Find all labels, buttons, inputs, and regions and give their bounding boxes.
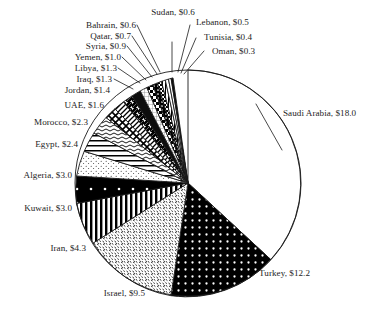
slice-label-turkey: Turkey, $12.2 (259, 268, 310, 279)
slice-label-morocco: Morocco, $2.3 (6, 117, 88, 128)
slice-label-iran: Iran, $4.3 (6, 243, 86, 254)
leader-libya (118, 68, 140, 83)
slice-label-egypt: Egypt, $2.4 (6, 139, 78, 150)
leader-iraq (114, 79, 133, 89)
slice-label-iraq: Iraq, $1.3 (6, 74, 112, 85)
leader-yemen (122, 57, 146, 80)
leader-syria (127, 46, 152, 77)
slice-label-uae: UAE, $1.6 (6, 100, 104, 111)
slice-label-bahrain: Bahrain, $0.6 (10, 20, 136, 31)
leader-lebanon (178, 25, 190, 72)
slice-label-libya: Libya, $1.3 (6, 63, 117, 74)
slice-label-saudi-arabia: Saudi Arabia, $18.0 (283, 108, 356, 119)
slice-label-algeria: Algeria, $3.0 (6, 170, 72, 181)
slice-label-israel: Israel, $9.5 (40, 288, 145, 299)
slice-label-sudan: Sudan, $0.6 (150, 7, 196, 18)
slice-label-lebanon: Lebanon, $0.5 (196, 17, 249, 28)
leader-tunisia (181, 38, 196, 73)
slice-label-yemen: Yemen, $1.0 (6, 52, 121, 63)
slice-label-syria: Syria, $0.9 (10, 41, 126, 52)
slice-label-jordan: Jordan, $1.4 (6, 85, 110, 96)
slice-label-tunisia: Tunisia, $0.4 (204, 32, 252, 43)
pie-slices (75, 70, 301, 297)
slice-label-qatar: Qatar, $0.7 (10, 31, 131, 42)
slice-label-oman: Oman, $0.3 (212, 46, 255, 57)
pie-chart: Bahrain, $0.6 Qatar, $0.7 Syria, $0.9 Ye… (0, 0, 376, 316)
slice-label-kuwait: Kuwait, $3.0 (6, 203, 72, 214)
